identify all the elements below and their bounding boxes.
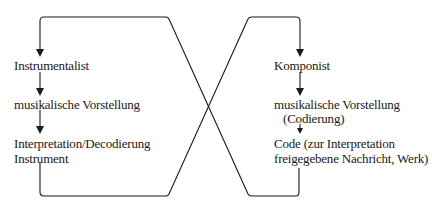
- left-top-connector: [40, 17, 166, 50]
- node-code-description: freigegebene Nachricht, Werk): [274, 152, 428, 165]
- node-instrumentalist: Instrumentalist: [14, 59, 89, 72]
- node-code: Code (zur Interpretation: [274, 137, 395, 150]
- left-bottom-connector: [40, 163, 166, 196]
- arrowhead-right-2: [296, 88, 304, 96]
- node-musikalische-vorstellung-left: musikalische Vorstellung: [14, 98, 140, 111]
- node-musikalische-vorstellung-right: musikalische Vorstellung: [274, 98, 400, 111]
- arrowhead-left-3: [36, 126, 44, 134]
- arrowhead-right-3: [297, 128, 303, 134]
- arrowhead-left-2: [36, 88, 44, 96]
- node-komponist: Komponist: [274, 59, 330, 72]
- arrowhead-right-1: [296, 49, 304, 57]
- node-codierung: (Codierung): [283, 112, 344, 125]
- arrowhead-left-1: [36, 49, 44, 57]
- node-instrument: Instrument: [14, 152, 68, 165]
- node-interpretation-decodierung: Interpretation/Decodierung: [14, 137, 150, 150]
